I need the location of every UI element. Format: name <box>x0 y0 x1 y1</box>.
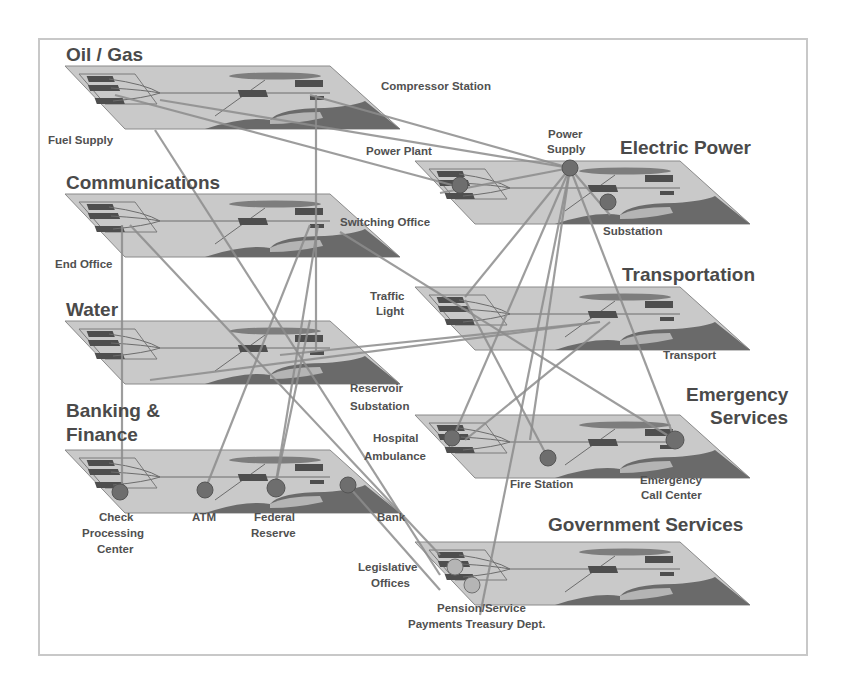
label-federal-line1: Federal <box>254 511 295 523</box>
label-check-line2: Processing <box>82 527 144 539</box>
label-substation: Substation <box>603 225 662 237</box>
label-legislative-line2: Offices <box>371 577 410 589</box>
label-transport: Transport <box>663 349 716 361</box>
label-pension-line2: Payments Treasury Dept. <box>408 618 545 630</box>
label-hospital-line2: Ambulance <box>364 450 426 462</box>
label-fire-station: Fire Station <box>510 478 573 490</box>
label-traffic-light-line2: Light <box>376 305 404 317</box>
layer-oil-gas <box>65 66 400 129</box>
node-emergency-call-center[interactable] <box>666 431 684 449</box>
title-emergency-line2: Services <box>710 407 788 428</box>
node-power-supply[interactable] <box>562 160 578 176</box>
title-government-services: Government Services <box>548 514 743 535</box>
node-fire-station[interactable] <box>540 450 556 466</box>
title-emergency-line1: Emergency <box>686 384 789 405</box>
title-transportation: Transportation <box>622 264 755 285</box>
label-switching-office: Switching Office <box>340 216 430 228</box>
layer-emergency-services <box>415 415 750 478</box>
title-electric-power: Electric Power <box>620 137 752 158</box>
label-pension-line1: Pension/Service <box>437 602 526 614</box>
label-power-plant: Power Plant <box>366 145 432 157</box>
label-atm: ATM <box>192 511 216 523</box>
layer-electric-power <box>415 161 750 224</box>
title-oil-gas: Oil / Gas <box>66 44 143 65</box>
label-legislative-line1: Legislative <box>358 561 417 573</box>
label-compressor-station: Compressor Station <box>381 80 491 92</box>
label-end-office: End Office <box>55 258 113 270</box>
infrastructure-diagram: Oil / Gas Electric Power Communications … <box>0 0 852 693</box>
node-pension-payments[interactable] <box>464 577 480 593</box>
node-federal-reserve[interactable] <box>267 479 285 497</box>
node-atm[interactable] <box>197 482 213 498</box>
label-ecc-line2: Call Center <box>641 489 702 501</box>
title-banking-line2: Finance <box>66 424 138 445</box>
node-power-plant[interactable] <box>452 177 468 193</box>
label-traffic-light-line1: Traffic <box>370 290 405 302</box>
label-hospital-line1: Hospital <box>373 432 418 444</box>
title-water: Water <box>66 299 119 320</box>
label-ecc-line1: Emergency <box>640 474 703 486</box>
title-banking-line1: Banking & <box>66 400 160 421</box>
node-substation[interactable] <box>600 194 616 210</box>
label-fuel-supply: Fuel Supply <box>48 134 114 146</box>
label-reservoir-line1: Reservoir <box>350 382 404 394</box>
layer-government-services <box>415 542 750 605</box>
layer-water <box>65 321 400 384</box>
node-bank[interactable] <box>340 477 356 493</box>
label-federal-line2: Reserve <box>251 527 296 539</box>
node-hospital-ambulance[interactable] <box>444 430 460 446</box>
node-legislative-offices[interactable] <box>447 559 463 575</box>
label-bank: Bank <box>377 511 406 523</box>
label-check-line3: Center <box>97 543 134 555</box>
label-check-line1: Check <box>99 511 134 523</box>
label-power-supply-line1: Power <box>548 128 583 140</box>
label-reservoir-line2: Substation <box>350 400 409 412</box>
node-check-processing-center[interactable] <box>112 484 128 500</box>
label-power-supply-line2: Supply <box>547 143 586 155</box>
title-communications: Communications <box>66 172 220 193</box>
